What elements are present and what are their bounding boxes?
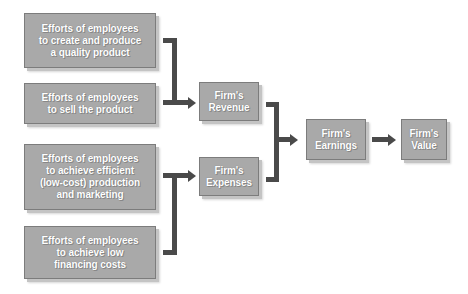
effort-financing-box: Efforts of employees to achieve low fina…: [24, 226, 156, 279]
arrow-head-icon: [388, 134, 396, 146]
expenses-box: Firm's Expenses: [199, 157, 259, 196]
connector-segment: [172, 38, 177, 105]
arrow-head-icon: [290, 134, 298, 146]
connector-segment: [274, 102, 279, 182]
connector-segment: [372, 137, 389, 142]
revenue-box: Firm's Revenue: [199, 82, 259, 121]
effort-quality-box: Efforts of employees to create and produ…: [24, 13, 156, 68]
connector-segment: [163, 100, 189, 105]
effort-efficient-box: Efforts of employees to achieve efficien…: [24, 144, 156, 210]
value-box: Firm's Value: [401, 119, 447, 160]
earnings-box: Firm's Earnings: [306, 119, 366, 160]
connector-segment: [266, 177, 279, 182]
arrow-head-icon: [188, 170, 196, 182]
effort-sell-box: Efforts of employees to sell the product: [24, 83, 156, 124]
connector-segment: [163, 250, 177, 255]
connector-segment: [172, 173, 177, 255]
arrow-head-icon: [188, 97, 196, 109]
